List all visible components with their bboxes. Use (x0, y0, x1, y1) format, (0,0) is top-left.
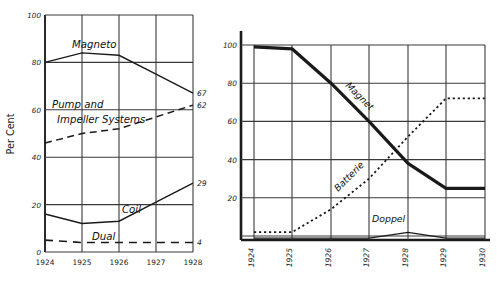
right-xtick-1925: 1925 (285, 248, 294, 267)
right-ytick-60: 60 (228, 117, 238, 126)
left-xtick-1926: 1926 (110, 258, 129, 267)
left-xtick-1924: 1924 (36, 258, 55, 267)
right-ytick-100: 100 (223, 41, 237, 50)
left-edge-label-67: 67 (197, 89, 207, 98)
right-xtick-1924: 1924 (247, 248, 256, 267)
left-ytick-40: 40 (32, 153, 42, 162)
figure-container: 100 80 60 40 20 0 Per Cent 1924 1925 192… (0, 0, 501, 296)
right-ytick-80: 80 (228, 79, 238, 88)
left-xtick-1927: 1927 (147, 258, 166, 267)
left-y-axis-title: Per Cent (5, 113, 16, 154)
left-ytick-100: 100 (27, 11, 41, 20)
left-ytick-60: 60 (32, 106, 42, 115)
left-ytick-20: 20 (32, 201, 42, 210)
left-edge-label-62: 62 (197, 101, 207, 110)
right-xtick-1928: 1928 (401, 248, 410, 267)
right-xtick-1929: 1929 (439, 248, 448, 267)
left-edge-label-4: 4 (197, 238, 202, 247)
right-ytick-40: 40 (228, 156, 238, 165)
right-xtick-1927: 1927 (362, 248, 371, 267)
left-edge-label-29: 29 (197, 179, 207, 188)
left-series-dual-label: Dual (92, 231, 116, 242)
left-ytick-80: 80 (32, 58, 42, 67)
left-series-pump-label-line1: Pump and (52, 99, 104, 110)
left-series-coil-label: Coil (122, 204, 141, 215)
left-series-pump-label-line2: Impeller Systems (57, 114, 146, 125)
two-panel-line-chart: 100 80 60 40 20 0 Per Cent 1924 1925 192… (0, 0, 501, 296)
left-ytick-0: 0 (36, 248, 41, 257)
right-series-doppel-label: Doppel (372, 213, 406, 224)
left-series-magneto-label: Magneto (72, 39, 116, 50)
left-xtick-1928: 1928 (184, 258, 203, 267)
left-xtick-1925: 1925 (73, 258, 92, 267)
right-ytick-20: 20 (228, 194, 238, 203)
right-xtick-1930: 1930 (478, 248, 487, 267)
right-xtick-1926: 1926 (324, 248, 333, 267)
